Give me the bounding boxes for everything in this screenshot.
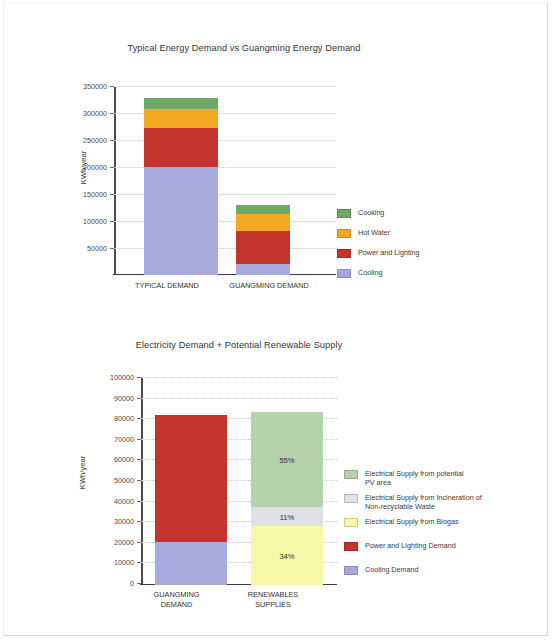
report-page: Typical Energy Demand vs Guangming Energ…: [3, 2, 548, 636]
chart-bottom-y-axis: [141, 377, 143, 585]
chart-bottom-tick-label: 80000: [92, 414, 134, 423]
chart-bottom-tick-label: 10000: [92, 558, 134, 567]
bar-segment-pv-value: 55%: [251, 455, 323, 464]
chart-top-xlabel-guangming: GUANGMING DEMAND: [209, 281, 329, 291]
chart-bottom-tick-label: 70000: [92, 434, 134, 443]
bar-segment-cooking: [144, 98, 218, 109]
legend-item: Cooking: [337, 208, 384, 218]
legend-item: Electrical Supply from Biogas: [344, 517, 458, 527]
gridline: [141, 398, 337, 399]
legend-item: Power and Lighting: [337, 248, 420, 258]
legend-label: Hot Water: [358, 228, 390, 237]
tick-mark: [137, 501, 141, 502]
chart-bottom-y-axis-label: KWh/year: [78, 443, 87, 503]
chart-top-tick-label: 300000: [65, 109, 107, 118]
legend-label: Cooling Demand: [365, 565, 419, 574]
chart-bottom-tick-label: 30000: [92, 517, 134, 526]
legend-item: Power and Lighting Demand: [344, 541, 456, 551]
chart-bottom-tick-label: 0: [92, 579, 134, 588]
legend-label: Electrical Supply from Incineration of N…: [365, 493, 482, 511]
tick-mark: [137, 521, 141, 522]
chart-top-plot-area: 350000 300000 250000 200000 150000 10000…: [114, 86, 336, 275]
legend-swatch-incineration-supply: [344, 494, 358, 503]
bar-segment-biogas: 34%: [251, 526, 323, 585]
chart-top-xlabel-typical: TYPICAL DEMAND: [112, 281, 222, 291]
bar-segment-power-and-lighting: [236, 231, 290, 264]
tick-mark: [110, 221, 114, 222]
chart-top-y-axis: [114, 86, 116, 275]
chart-bottom-tick-label: 60000: [92, 455, 134, 464]
chart-top-tick-label: 200000: [65, 163, 107, 172]
tick-mark: [137, 480, 141, 481]
bar-segment-hot-water: [236, 214, 290, 231]
bar-segment-cooking: [236, 205, 290, 214]
gridline: [141, 377, 337, 378]
bar-segment-cooling: [144, 167, 218, 275]
legend-label: Electrical Supply from potential PV area: [365, 469, 464, 487]
chart-top-tick-label: 150000: [65, 190, 107, 199]
chart-top-tick-label: 50000: [65, 244, 107, 253]
legend-label: Cooling: [358, 268, 382, 277]
legend-swatch-power-and-lighting: [337, 249, 351, 258]
legend-label: Power and Lighting: [358, 248, 420, 257]
tick-mark: [110, 167, 114, 168]
chart-bottom-tick-label: 90000: [92, 393, 134, 402]
legend-item: Cooling: [337, 268, 382, 278]
bar-segment-power-and-lighting-demand: [155, 415, 227, 542]
tick-mark: [137, 418, 141, 419]
chart-typical-vs-guangming: Typical Energy Demand vs Guangming Energ…: [4, 3, 549, 303]
chart-bottom-plot-area: 100000 90000 80000 70000 60000 50000 400…: [141, 377, 337, 585]
tick-mark: [110, 248, 114, 249]
chart-bottom-xlabel-renewables: RENEWABLES SUPPLIES: [234, 590, 312, 609]
tick-mark: [137, 583, 141, 584]
legend-item: Cooling Demand: [344, 565, 419, 575]
chart-bottom-tick-label: 40000: [92, 496, 134, 505]
bar-guangming-demand: [236, 205, 290, 275]
chart-top-title: Typical Energy Demand vs Guangming Energ…: [64, 43, 424, 53]
legend-swatch-cooling-demand: [344, 566, 358, 575]
tick-mark: [137, 439, 141, 440]
legend-swatch-pv-supply: [344, 470, 358, 479]
chart-bottom-title: Electricity Demand + Potential Renewable…: [59, 340, 419, 350]
legend-item: Electrical Supply from Incineration of N…: [344, 493, 482, 511]
chart-electricity-demand-renewables: Electricity Demand + Potential Renewable…: [4, 303, 549, 633]
legend-swatch-hot-water: [337, 229, 351, 238]
legend-label: Power and Lighting Demand: [365, 541, 456, 550]
tick-mark: [137, 562, 141, 563]
chart-top-tick-label: 100000: [65, 217, 107, 226]
legend-label: Cooking: [358, 208, 384, 217]
legend-swatch-cooling: [337, 269, 351, 278]
bar-renewables-supplies: 34% 11% 55%: [251, 412, 323, 585]
bar-typical-demand: [144, 98, 218, 275]
bar-segment-incineration-value: 11%: [251, 512, 323, 521]
tick-mark: [137, 377, 141, 378]
chart-bottom-tick-label: 100000: [92, 373, 134, 382]
tick-mark: [137, 542, 141, 543]
legend-swatch-power-and-lighting-demand: [344, 542, 358, 551]
bar-segment-hot-water: [144, 109, 218, 128]
bar-segment-pv: 55%: [251, 412, 323, 507]
chart-bottom-xlabel-guangming: GUANGMING DEMAND: [139, 590, 214, 609]
legend-item: Electrical Supply from potential PV area: [344, 469, 464, 487]
tick-mark: [110, 194, 114, 195]
tick-mark: [137, 398, 141, 399]
legend-item: Hot Water: [337, 228, 390, 238]
gridline: [114, 86, 336, 87]
chart-bottom-tick-label: 50000: [92, 476, 134, 485]
tick-mark: [110, 113, 114, 114]
bar-segment-biogas-value: 34%: [251, 551, 323, 560]
tick-mark: [110, 86, 114, 87]
bar-segment-cooling: [236, 264, 290, 275]
bar-segment-cooling-demand: [155, 542, 227, 585]
legend-label: Electrical Supply from Biogas: [365, 517, 458, 526]
chart-top-tick-label: 350000: [65, 82, 107, 91]
chart-bottom-tick-label: 20000: [92, 537, 134, 546]
bar-segment-incineration: 11%: [251, 507, 323, 526]
tick-mark: [110, 140, 114, 141]
legend-swatch-biogas-supply: [344, 518, 358, 527]
tick-mark: [137, 459, 141, 460]
bar-guangming-demand: [155, 415, 227, 585]
bar-segment-power-and-lighting: [144, 128, 218, 167]
legend-swatch-cooking: [337, 209, 351, 218]
chart-top-tick-label: 250000: [65, 136, 107, 145]
